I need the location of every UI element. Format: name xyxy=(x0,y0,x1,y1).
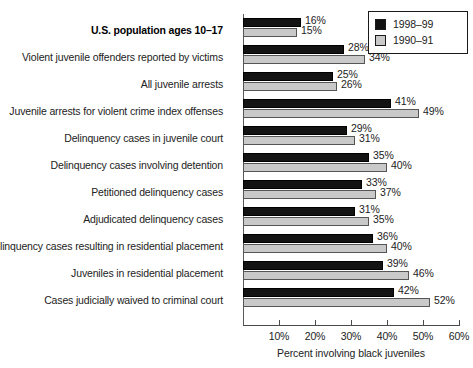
x-axis-tick-label: 50% xyxy=(413,330,434,342)
bar-1998-99 xyxy=(243,72,333,81)
category-label: Delinquency cases resulting in residenti… xyxy=(0,232,230,259)
x-axis-tick xyxy=(423,320,424,326)
bar-1998-99 xyxy=(243,45,344,54)
x-axis-tick-label: 60% xyxy=(449,330,470,342)
chart-row: Delinquency cases involving detention35%… xyxy=(0,151,473,178)
category-label: Petitioned delinquency cases xyxy=(0,178,230,205)
bar-value-label: 26% xyxy=(341,78,362,90)
x-axis-title: Percent involving black juveniles xyxy=(243,347,459,359)
x-axis-tick-label: 20% xyxy=(305,330,326,342)
bar-value-label: 52% xyxy=(434,294,455,306)
x-axis-tick-label: 30% xyxy=(341,330,362,342)
chart-row: Juvenile arrests for violent crime index… xyxy=(0,97,473,124)
chart-row: Cases judicially waived to criminal cour… xyxy=(0,286,473,313)
bar-1990-91 xyxy=(243,298,430,307)
legend-swatch-icon xyxy=(375,19,386,30)
chart-row: Petitioned delinquency cases33%37% xyxy=(0,178,473,205)
bar-value-label: 28% xyxy=(348,41,369,53)
bar-1998-99 xyxy=(243,234,373,243)
chart-row: Juveniles in residential placement39%46% xyxy=(0,259,473,286)
bar-1990-91 xyxy=(243,190,376,199)
bar-1998-99 xyxy=(243,153,369,162)
bar-value-label: 40% xyxy=(391,240,412,252)
bar-1998-99 xyxy=(243,180,362,189)
bar-value-label: 39% xyxy=(387,257,408,269)
bar-1990-91 xyxy=(243,109,419,118)
bar-value-label: 40% xyxy=(391,159,412,171)
bar-1990-91 xyxy=(243,244,387,253)
chart-row: Delinquency cases resulting in residenti… xyxy=(0,232,473,259)
bar-1990-91 xyxy=(243,271,409,280)
category-label: U.S. population ages 10–17 xyxy=(0,16,230,43)
bar-value-label: 31% xyxy=(359,132,380,144)
x-axis-tick-label: 40% xyxy=(377,330,398,342)
legend-entry: 1990–91 xyxy=(375,32,462,48)
bar-1990-91 xyxy=(243,136,355,145)
chart-row: Delinquency cases in juvenile court29%31… xyxy=(0,124,473,151)
bar-1998-99 xyxy=(243,18,301,27)
bar-1998-99 xyxy=(243,126,347,135)
category-label: Delinquency cases in juvenile court xyxy=(0,124,230,151)
bar-value-label: 35% xyxy=(373,213,394,225)
bar-value-label: 15% xyxy=(301,24,322,36)
x-axis-tick xyxy=(351,320,352,326)
bar-value-label: 41% xyxy=(395,95,416,107)
x-axis-tick xyxy=(387,320,388,326)
legend-swatch-icon xyxy=(375,35,386,46)
bar-1990-91 xyxy=(243,163,387,172)
legend-entry: 1998–99 xyxy=(375,16,462,32)
bar-value-label: 42% xyxy=(398,284,419,296)
x-axis-tick xyxy=(279,320,280,326)
bar-1990-91 xyxy=(243,217,369,226)
bar-1998-99 xyxy=(243,99,391,108)
category-label: Cases judicially waived to criminal cour… xyxy=(0,286,230,313)
chart-row: Adjudicated delinquency cases31%35% xyxy=(0,205,473,232)
category-label: Juveniles in residential placement xyxy=(0,259,230,286)
bar-value-label: 46% xyxy=(413,267,434,279)
category-label: All juvenile arrests xyxy=(0,70,230,97)
bar-1990-91 xyxy=(243,82,337,91)
x-axis-tick-label: 10% xyxy=(269,330,290,342)
bar-value-label: 49% xyxy=(423,105,444,117)
x-axis-tick xyxy=(459,320,460,326)
bar-1998-99 xyxy=(243,288,394,297)
legend-label: 1998–99 xyxy=(393,18,433,30)
chart-row: All juvenile arrests25%26% xyxy=(0,70,473,97)
bar-1990-91 xyxy=(243,28,297,37)
category-label: Violent juvenile offenders reported by v… xyxy=(0,43,230,70)
bar-value-label: 37% xyxy=(380,186,401,198)
category-label: Adjudicated delinquency cases xyxy=(0,205,230,232)
bar-1990-91 xyxy=(243,55,365,64)
bar-1998-99 xyxy=(243,261,383,270)
x-axis-tick xyxy=(315,320,316,326)
category-label: Juvenile arrests for violent crime index… xyxy=(0,97,230,124)
bar-1998-99 xyxy=(243,207,355,216)
bar-chart: U.S. population ages 10–1716%15%Violent … xyxy=(0,0,473,368)
plot-area: U.S. population ages 10–1716%15%Violent … xyxy=(0,0,473,368)
chart-legend: 1998–991990–91 xyxy=(368,11,468,54)
category-label: Delinquency cases involving detention xyxy=(0,151,230,178)
legend-label: 1990–91 xyxy=(393,34,433,46)
